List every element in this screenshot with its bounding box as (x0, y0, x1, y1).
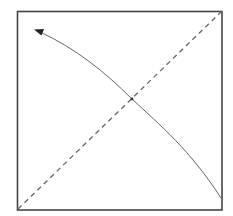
diagram-svg (0, 0, 233, 216)
origami-diagram (0, 0, 233, 216)
paper-square (18, 12, 223, 211)
center-point (131, 98, 134, 101)
